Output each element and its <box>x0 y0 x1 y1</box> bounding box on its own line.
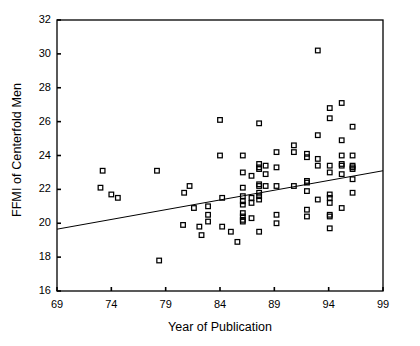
data-point-marker <box>257 229 262 234</box>
data-point-marker <box>206 219 211 224</box>
data-point-marker <box>316 197 321 202</box>
y-tick-label: 26 <box>29 115 51 127</box>
y-tick-label: 20 <box>29 216 51 228</box>
data-point-marker <box>100 168 105 173</box>
data-point-marker <box>327 170 332 175</box>
y-tick-label: 28 <box>29 81 51 93</box>
data-point-marker <box>339 172 344 177</box>
plot-axes <box>57 20 383 291</box>
data-point-marker <box>241 170 246 175</box>
data-point-marker <box>206 204 211 209</box>
data-point-marker <box>292 143 297 148</box>
y-tick-label: 32 <box>29 13 51 25</box>
data-point-marker <box>257 121 262 126</box>
axis-ticks <box>57 20 383 291</box>
data-point-marker <box>350 177 355 182</box>
data-point-marker <box>199 233 204 238</box>
data-point-marker <box>241 185 246 190</box>
data-point-marker <box>305 189 310 194</box>
data-point-marker <box>327 106 332 111</box>
data-point-marker <box>274 221 279 226</box>
data-point-marker <box>249 201 254 206</box>
data-point-marker <box>263 184 268 189</box>
data-point-marker <box>327 163 332 168</box>
data-point-marker <box>157 258 162 263</box>
data-point-marker <box>235 240 240 245</box>
x-tick-label: 94 <box>314 298 344 310</box>
data-point-marker <box>327 116 332 121</box>
x-tick-label: 89 <box>259 298 289 310</box>
x-tick-label: 79 <box>151 298 181 310</box>
data-point-marker <box>116 196 121 201</box>
data-point-marker <box>327 201 332 206</box>
data-point-marker <box>274 150 279 155</box>
data-point-marker <box>274 184 279 189</box>
data-point-marker <box>274 165 279 170</box>
x-tick-label: 99 <box>368 298 398 310</box>
y-tick-label: 30 <box>29 47 51 59</box>
data-point-marker <box>316 157 321 162</box>
data-point-marker <box>181 223 186 228</box>
data-point-marker <box>339 138 344 143</box>
data-point-marker <box>339 101 344 106</box>
data-points <box>98 48 355 263</box>
data-point-marker <box>292 150 297 155</box>
x-tick-label: 84 <box>205 298 235 310</box>
y-tick-label: 18 <box>29 250 51 262</box>
data-point-marker <box>182 190 187 195</box>
data-point-marker <box>249 216 254 221</box>
data-point-marker <box>155 168 160 173</box>
data-point-marker <box>218 118 223 123</box>
data-point-marker <box>206 212 211 217</box>
data-point-marker <box>274 212 279 217</box>
data-point-marker <box>249 174 254 179</box>
data-point-marker <box>305 207 310 212</box>
data-point-marker <box>305 214 310 219</box>
data-point-marker <box>316 133 321 138</box>
data-point-marker <box>350 124 355 129</box>
data-point-marker <box>350 153 355 158</box>
data-point-marker <box>316 48 321 53</box>
data-point-marker <box>327 226 332 231</box>
y-tick-label: 24 <box>29 149 51 161</box>
data-point-marker <box>192 206 197 211</box>
data-point-marker <box>339 153 344 158</box>
y-tick-label: 16 <box>29 284 51 296</box>
data-point-marker <box>218 153 223 158</box>
data-point-marker <box>229 229 234 234</box>
scatter-plot-figure: FFMI of Centerfold Men Year of Publicati… <box>0 0 420 346</box>
data-point-marker <box>339 206 344 211</box>
x-tick-label: 69 <box>42 298 72 310</box>
data-point-marker <box>350 190 355 195</box>
x-tick-label: 74 <box>96 298 126 310</box>
data-point-marker <box>197 224 202 229</box>
data-point-marker <box>249 196 254 201</box>
data-point-marker <box>263 163 268 168</box>
y-tick-label: 22 <box>29 182 51 194</box>
trend-line <box>57 171 383 229</box>
data-point-marker <box>316 163 321 168</box>
data-point-marker <box>263 172 268 177</box>
plot-canvas <box>0 0 420 346</box>
data-point-marker <box>98 185 103 190</box>
data-point-marker <box>241 153 246 158</box>
data-point-marker <box>220 224 225 229</box>
data-point-marker <box>187 184 192 189</box>
data-point-marker <box>109 192 114 197</box>
